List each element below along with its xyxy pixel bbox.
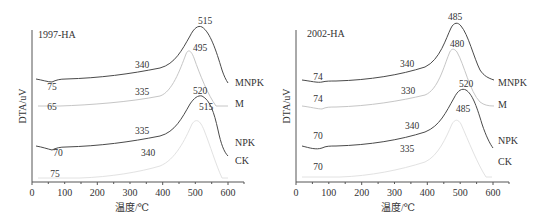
annotation: 485 (456, 104, 471, 114)
series-label-mnpk: MNPK (498, 77, 528, 88)
annotation: 340 (405, 121, 420, 131)
x-tick-label: 500 (453, 187, 468, 198)
annotation: 330 (401, 86, 416, 96)
x-tick-label: 0 (294, 187, 299, 198)
annotation: 520 (459, 79, 474, 89)
annotation: 70 (53, 148, 63, 158)
annotation: 515 (198, 16, 213, 26)
series-ck-line (38, 121, 228, 178)
x-tick-label: 600 (486, 187, 501, 198)
series-label-ck: CK (235, 155, 250, 166)
x-tick-label: 300 (387, 187, 402, 198)
x-axis-tick-labels: 0 100 200 300 400 500 600 (30, 187, 236, 198)
annotation: 335 (400, 144, 415, 154)
x-axis-tick-labels: 0 100 200 300 400 500 600 (294, 187, 501, 198)
series-label-mnpk: MNPK (235, 77, 265, 88)
x-axis-title: 温度/℃ (115, 201, 149, 213)
x-axis-title: 温度/℃ (381, 201, 415, 213)
chart-2002-ha: 0 100 200 300 400 500 600 温度/℃ DTA/uV 20… (268, 0, 536, 223)
series-m-line (38, 51, 228, 106)
annotation: 335 (135, 126, 150, 136)
annotation: 485 (448, 12, 463, 22)
annotation: 340 (400, 59, 415, 69)
x-tick-label: 400 (155, 187, 170, 198)
series-label-ck: CK (498, 156, 513, 167)
annotation: 70 (313, 131, 323, 141)
annotation: 340 (135, 60, 150, 70)
panel-title: 2002-HA (307, 28, 346, 39)
panel-title: 1997-HA (38, 29, 77, 40)
series-npk-line (302, 89, 493, 149)
x-tick-label: 600 (221, 187, 236, 198)
annotation: 70 (313, 162, 323, 172)
series-ck-line (302, 120, 492, 177)
annotation: 75 (47, 82, 57, 92)
annotation: 74 (313, 72, 323, 82)
x-tick-label: 300 (123, 187, 138, 198)
x-tick-label: 200 (90, 187, 105, 198)
x-tick-label: 0 (30, 187, 35, 198)
annotation: 480 (450, 39, 465, 49)
x-tick-label: 400 (420, 187, 435, 198)
x-tick-label: 200 (354, 187, 369, 198)
y-axis-title: DTA/uV (281, 88, 292, 124)
chart-1997-ha: 0 100 200 300 400 500 600 温度/℃ DTA/uV 19… (0, 0, 268, 223)
annotation: 515 (199, 102, 214, 112)
annotation: 75 (50, 169, 60, 179)
series-label-m: M (235, 98, 244, 109)
y-axis-title: DTA/uV (17, 88, 28, 124)
annotation: 65 (47, 102, 57, 112)
x-tick-label: 500 (188, 187, 203, 198)
annotation: 495 (193, 43, 208, 53)
series-labels: MNPK M NPK CK (498, 77, 528, 167)
x-tick-label: 100 (321, 187, 336, 198)
series-label-npk: NPK (498, 135, 519, 146)
x-tick-label: 100 (57, 187, 72, 198)
chart-2002-ha-plot: 0 100 200 300 400 500 600 温度/℃ DTA/uV 20… (268, 0, 537, 223)
annotation: 335 (135, 87, 150, 97)
series-labels: MNPK M NPK CK (235, 77, 265, 166)
annotation: 74 (313, 94, 323, 104)
series-label-m: M (498, 99, 507, 110)
peak-annotations: 75 340 515 65 335 495 70 335 520 75 340 … (47, 16, 213, 179)
series-label-npk: NPK (235, 137, 256, 148)
annotation: 520 (193, 86, 208, 96)
chart-1997-ha-plot: 0 100 200 300 400 500 600 温度/℃ DTA/uV 19… (0, 0, 268, 223)
annotation: 340 (141, 148, 156, 158)
